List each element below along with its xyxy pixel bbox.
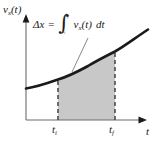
y-axis-label: vx(t)	[3, 4, 21, 16]
integral-lower-limit-subscript: i	[64, 31, 65, 35]
equation-differential: dt	[96, 18, 105, 30]
physics-figure-velocity-vs-time: vx(t) t ti tf Δx = ∫ tf ti vx(t) dt	[0, 0, 155, 143]
integral-lower-limit: ti	[63, 28, 66, 35]
integral-upper-limit-subscript: f	[67, 15, 68, 19]
shaded-area-under-curve	[58, 52, 115, 121]
tick-label-t-initial-subscript: i	[55, 129, 57, 136]
tick-label-t-final: tf	[109, 124, 114, 136]
equation-integral-group: ∫ tf ti	[59, 13, 72, 35]
tick-label-t-initial: ti	[52, 124, 57, 136]
equation-integrand-argument: (t)	[81, 18, 91, 30]
tick-label-t-final-subscript: f	[112, 129, 114, 136]
y-axis-label-argument: (t)	[11, 3, 21, 15]
integral-upper-limit: tf	[66, 12, 69, 19]
displacement-integral-equation: Δx = ∫ tf ti vx(t) dt	[33, 13, 104, 35]
x-axis-label: t	[146, 126, 149, 137]
y-axis-arrowhead	[23, 14, 30, 23]
x-axis-arrowhead	[139, 117, 148, 124]
equation-delta-x: Δx	[33, 18, 44, 30]
equation-equals-sign: =	[48, 18, 54, 30]
equation-integrand: vx(t)	[74, 18, 92, 31]
